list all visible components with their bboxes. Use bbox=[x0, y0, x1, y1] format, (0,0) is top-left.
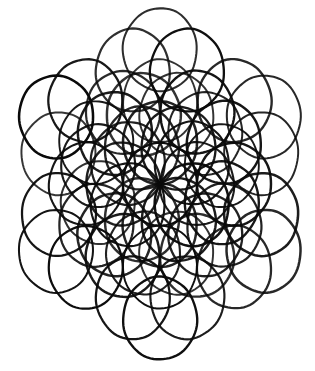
rosette-diagram: Twelve-fold circle rosette bbox=[0, 0, 315, 371]
figure-root: Twelve-fold circle rosette bbox=[0, 0, 315, 371]
